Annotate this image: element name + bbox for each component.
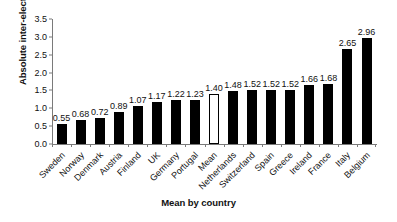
bar-value-label: 1.66 bbox=[301, 74, 319, 84]
x-axis-title: Mean by country bbox=[0, 197, 397, 208]
bar-value-label: 1.52 bbox=[262, 79, 280, 89]
bar-value-label: 1.68 bbox=[320, 73, 338, 83]
bar-germany[interactable] bbox=[171, 100, 181, 144]
bar-group[interactable]: 1.66 bbox=[300, 19, 319, 144]
bar-group[interactable]: 1.40 bbox=[205, 19, 224, 144]
bar-sweden[interactable] bbox=[57, 124, 67, 144]
bar-group[interactable]: 1.17 bbox=[147, 19, 166, 144]
bar-group[interactable]: 1.48 bbox=[224, 19, 243, 144]
bar-value-label: 0.55 bbox=[53, 113, 71, 123]
bar-value-label: 1.48 bbox=[224, 80, 242, 90]
x-label-slot: Belgium bbox=[357, 148, 376, 200]
bar-belgium[interactable] bbox=[362, 38, 372, 144]
bar-series: 0.550.680.720.891.071.171.221.231.401.48… bbox=[52, 19, 376, 144]
bar-group[interactable]: 0.68 bbox=[71, 19, 90, 144]
bar-group[interactable]: 0.72 bbox=[90, 19, 109, 144]
y-axis-title: Absolute inter-election change bbox=[16, 0, 30, 92]
bar-value-label: 1.07 bbox=[129, 95, 147, 105]
bar-value-label: 1.40 bbox=[205, 83, 223, 93]
bar-group[interactable]: 1.68 bbox=[319, 19, 338, 144]
x-label-slot: Switzerland bbox=[243, 148, 262, 200]
bar-group[interactable]: 2.96 bbox=[357, 19, 376, 144]
bar-group[interactable]: 2.65 bbox=[338, 19, 357, 144]
plot-area: 0.00.51.01.52.02.53.03.5 0.550.680.720.8… bbox=[52, 19, 376, 144]
bar-group[interactable]: 0.55 bbox=[52, 19, 71, 144]
bar-group[interactable]: 1.22 bbox=[166, 19, 185, 144]
bar-value-label: 1.52 bbox=[282, 79, 300, 89]
bar-value-label: 1.22 bbox=[167, 89, 185, 99]
bar-value-label: 2.65 bbox=[339, 38, 357, 48]
x-axis-category-labels: SwedenNorwayDenmarkAustriaFinlandUKGerma… bbox=[52, 148, 376, 200]
x-label-slot: Portugal bbox=[185, 148, 204, 200]
x-tick-mark bbox=[52, 144, 53, 147]
bar-value-label: 1.17 bbox=[148, 91, 166, 101]
bar-value-label: 1.23 bbox=[186, 89, 204, 99]
bar-value-label: 1.52 bbox=[243, 79, 261, 89]
bar-value-label: 0.89 bbox=[110, 101, 128, 111]
bar-italy[interactable] bbox=[342, 49, 352, 144]
x-label-slot: France bbox=[319, 148, 338, 200]
bar-value-label: 0.72 bbox=[91, 107, 109, 117]
bar-value-label: 2.96 bbox=[358, 27, 376, 37]
x-label-slot: Finland bbox=[128, 148, 147, 200]
bar-group[interactable]: 1.07 bbox=[128, 19, 147, 144]
bar-value-label: 0.68 bbox=[72, 109, 90, 119]
bar-chart: Absolute inter-election change 0.00.51.0… bbox=[0, 0, 397, 222]
